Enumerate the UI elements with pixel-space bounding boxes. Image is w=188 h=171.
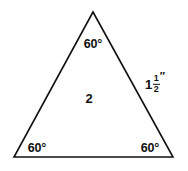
interior-value-label: 2 [85,92,92,105]
side-length-label-right: 1 1 2 ″ [145,74,165,94]
fraction-numerator: 1 [153,74,159,83]
inch-mark-icon: ″ [160,71,165,82]
fraction-one-half: 1 2 [153,74,160,94]
angle-label-top: 60° [84,38,102,51]
angle-label-bottom-right: 60° [141,142,159,155]
fraction-denominator: 2 [153,85,159,94]
mixed-number-whole-part: 1 [145,78,152,91]
geometry-figure: 60° 60° 60° 2 1 1 2 ″ [0,0,188,171]
angle-label-bottom-left: 60° [28,142,46,155]
